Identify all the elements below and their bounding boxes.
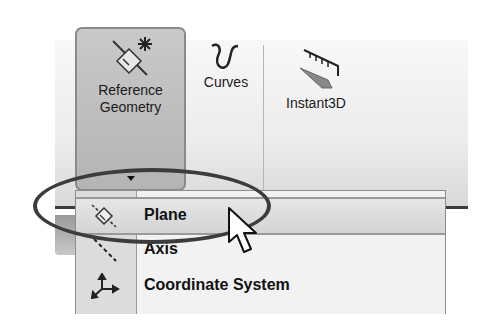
instant3d-icon	[298, 46, 348, 90]
axis-icon	[90, 237, 120, 263]
curves-label: Curves	[190, 74, 262, 90]
menu-item-label: Coordinate System	[144, 276, 290, 294]
mouse-pointer-icon	[226, 206, 264, 258]
curves-icon	[208, 40, 242, 74]
curves-button[interactable]: Curves	[190, 40, 262, 190]
menu-item-coordinate-system[interactable]: Coordinate System	[76, 269, 445, 303]
reference-geometry-label: Reference Geometry	[77, 82, 184, 116]
dropdown-arrow-icon[interactable]	[127, 176, 135, 181]
menu-item-label: Plane	[144, 206, 187, 224]
ribbon-separator	[263, 45, 264, 195]
plane-icon	[90, 203, 120, 229]
reference-geometry-button[interactable]: Reference Geometry	[75, 27, 186, 191]
ribbon-left-edge	[55, 215, 77, 255]
coordinate-system-icon	[90, 273, 120, 299]
reference-geometry-icon	[109, 35, 155, 79]
instant3d-label: Instant3D	[268, 95, 364, 111]
instant3d-button[interactable]: Instant3D	[268, 40, 364, 190]
menu-item-label: Axis	[144, 240, 178, 258]
